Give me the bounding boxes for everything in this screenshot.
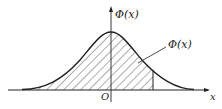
shaded-area: [22, 32, 153, 90]
leader-line: [138, 47, 166, 63]
origin-label: O: [101, 91, 109, 102]
y-axis-arrow-icon: [109, 6, 113, 12]
x-axis-label: x: [210, 91, 216, 102]
y-axis-label: Φ(x): [115, 8, 139, 21]
area-label: Φ(x): [168, 38, 192, 51]
normal-distribution-diagram: Φ(x) Φ(x) O x: [0, 0, 222, 109]
